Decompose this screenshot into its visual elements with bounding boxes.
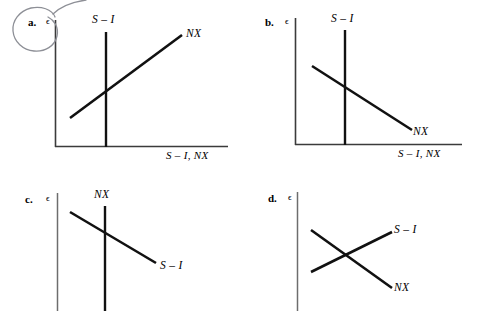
panel-b-label-s-i: S – I bbox=[331, 13, 354, 25]
panel-d-label-s-i: S – I bbox=[394, 224, 417, 236]
panel-b-label-nx: NX bbox=[413, 126, 428, 138]
panel-d-label-nx: NX bbox=[394, 282, 409, 294]
panel-d: d. ϵ S – I NX bbox=[0, 180, 477, 311]
panel-b: b. ϵ S – I NX S – I, NX bbox=[0, 0, 477, 180]
panel-b-x-axis-caption: S – I, NX bbox=[398, 148, 440, 159]
figure-root: a. ϵ S – I NX S – I, NX b. ϵ S – I NX S bbox=[0, 0, 477, 311]
panel-b-curve-nx bbox=[312, 66, 412, 130]
